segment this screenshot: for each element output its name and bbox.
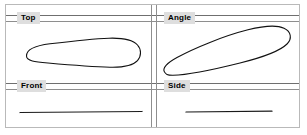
viewport-label-top[interactable]: Top: [17, 12, 40, 24]
viewport-angle-canvas[interactable]: [158, 20, 302, 80]
divider-horizontal-bottom-inner: [6, 89, 299, 90]
viewport-label-angle[interactable]: Angle: [164, 12, 195, 24]
divider-vertical-right: [156, 5, 157, 127]
viewport-side-canvas[interactable]: [158, 96, 302, 126]
viewport-top-canvas[interactable]: [6, 24, 150, 78]
divider-horizontal-top-inner: [6, 21, 299, 22]
divider-horizontal-bottom-outer: [6, 83, 299, 84]
divider-horizontal-top-outer: [6, 15, 299, 16]
viewport-label-side[interactable]: Side: [164, 80, 190, 92]
viewport-front-canvas[interactable]: [6, 96, 150, 126]
viewport-label-front[interactable]: Front: [17, 80, 46, 92]
divider-vertical-left: [151, 5, 152, 127]
viewport-window: Top Angle Front Side: [0, 0, 307, 135]
